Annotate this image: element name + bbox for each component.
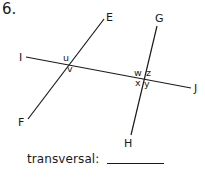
point-label-h: H [124,138,132,149]
point-label-g: G [155,13,164,24]
angle-label-u: u [63,53,69,63]
line-ij [26,57,191,88]
problem-number: 6. [2,2,16,17]
point-label-f: F [18,117,24,128]
angle-label-x: x [135,78,141,88]
transversal-prompt-label: transversal: [27,153,99,165]
angle-label-z: z [146,68,151,78]
transversal-answer-blank[interactable] [107,163,164,164]
angle-label-v: v [67,64,73,74]
diagram-canvas [0,0,205,177]
point-label-i: I [19,52,22,63]
point-label-j: J [194,83,197,94]
angle-label-y: y [144,79,150,89]
point-label-e: E [106,12,113,23]
